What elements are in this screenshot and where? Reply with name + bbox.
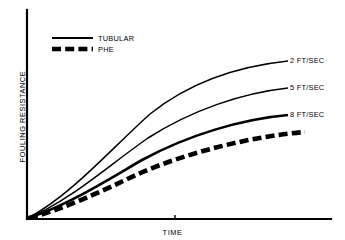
fouling-resistance-chart: TUBULAR PHE 2 FT/SEC 5 FT/SEC 8 FT/SEC F… [0, 0, 345, 240]
legend-label-tubular: TUBULAR [98, 35, 134, 42]
x-axis-label: TIME [0, 228, 345, 237]
curve-label-8-ft-sec: 8 FT/SEC [290, 111, 324, 118]
curve-phe [29, 132, 305, 218]
curve-2-ft-sec [28, 61, 288, 218]
curve-label-5-ft-sec: 5 FT/SEC [290, 84, 324, 91]
y-axis-label: FOULING RESISTANCE [18, 47, 27, 187]
curve-label-2-ft-sec: 2 FT/SEC [290, 57, 324, 64]
chart-plot-area [0, 0, 345, 240]
legend-label-phe: PHE [98, 46, 114, 53]
